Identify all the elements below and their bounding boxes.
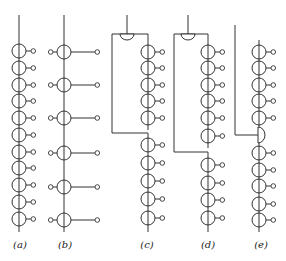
panel-d <box>174 15 225 232</box>
tap-terminal <box>220 99 225 104</box>
tap-terminal <box>271 168 276 173</box>
tap-terminal <box>271 151 276 156</box>
panel-a <box>12 15 36 232</box>
tap-terminal <box>220 116 225 121</box>
tap-terminal <box>220 163 225 168</box>
tap-terminal <box>31 116 36 121</box>
tap-terminal <box>271 83 276 88</box>
tap-terminal <box>31 200 36 205</box>
tap-terminal-left <box>48 185 53 190</box>
tap-terminal <box>31 183 36 188</box>
tap-terminal <box>160 99 165 104</box>
tap-terminal <box>160 50 165 55</box>
tap-terminal-left <box>48 151 53 156</box>
label-b: (b) <box>58 239 72 250</box>
tap-terminal <box>95 218 100 223</box>
diagram-canvas: (a) (b) (c) (d) (e) <box>0 0 286 261</box>
tap-terminal <box>220 134 225 139</box>
tap-terminal <box>31 83 36 88</box>
tap-terminal <box>31 66 36 71</box>
tap-terminal <box>271 116 276 121</box>
tap-terminal <box>271 218 276 223</box>
tap-terminal <box>271 99 276 104</box>
splitter-icon <box>181 34 195 40</box>
tap-terminal <box>220 198 225 203</box>
tap-terminal <box>31 166 36 171</box>
tap-terminal <box>95 83 100 88</box>
tap-terminal <box>31 217 36 222</box>
panel-c <box>112 15 165 232</box>
tap-terminal <box>31 49 36 54</box>
tap-terminal-left <box>48 116 53 121</box>
panel-b <box>48 15 99 232</box>
tap-terminal-left <box>48 218 53 223</box>
tap-terminal <box>160 216 165 221</box>
tap-terminal <box>160 116 165 121</box>
panel-e <box>235 25 276 232</box>
tap-terminal <box>95 185 100 190</box>
tap-terminal <box>271 202 276 207</box>
splitter-icon <box>120 34 134 40</box>
label-e: (e) <box>254 239 268 250</box>
tap-terminal <box>271 184 276 189</box>
tap-terminal <box>31 133 36 138</box>
tap-terminal <box>160 161 165 166</box>
combiner-icon <box>258 127 265 143</box>
label-c: (c) <box>140 239 154 250</box>
tap-terminal <box>160 197 165 202</box>
tap-terminal <box>95 116 100 121</box>
tap-terminal <box>220 83 225 88</box>
tap-terminal <box>220 181 225 186</box>
tap-terminal <box>160 143 165 148</box>
tap-terminal <box>95 50 100 55</box>
tap-terminal <box>31 99 36 104</box>
tap-terminal <box>271 50 276 55</box>
tap-terminal <box>160 179 165 184</box>
tap-terminal <box>220 50 225 55</box>
tap-terminal <box>271 66 276 71</box>
label-d: (d) <box>201 239 215 250</box>
tap-terminal <box>220 216 225 221</box>
tap-terminal <box>220 66 225 71</box>
tap-terminal <box>160 83 165 88</box>
tap-terminal-left <box>48 50 53 55</box>
label-a: (a) <box>13 239 27 250</box>
tap-terminal <box>31 150 36 155</box>
tap-terminal <box>160 66 165 71</box>
tap-terminal <box>95 151 100 156</box>
tap-terminal-left <box>48 83 53 88</box>
